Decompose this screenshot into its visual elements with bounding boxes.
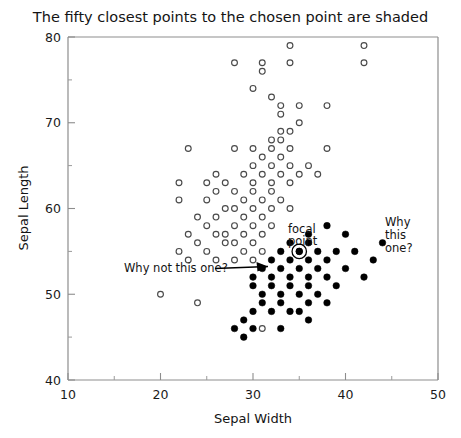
- data-point-unshaded: [250, 180, 256, 186]
- data-point-unshaded: [232, 206, 238, 212]
- data-point-unshaded: [232, 60, 238, 66]
- data-point-unshaded: [232, 223, 238, 229]
- data-point-shaded: [324, 257, 331, 264]
- data-point-unshaded: [259, 231, 265, 237]
- y-tick-label: 80: [45, 30, 61, 45]
- data-point-unshaded: [250, 146, 256, 152]
- data-point-unshaded: [241, 214, 247, 220]
- data-point-unshaded: [287, 128, 293, 134]
- data-point-unshaded: [250, 188, 256, 194]
- data-point-shaded: [277, 291, 284, 298]
- data-point-shaded: [351, 248, 358, 255]
- data-point-unshaded: [250, 206, 256, 212]
- y-tick-label: 40: [45, 373, 61, 388]
- data-point-unshaded: [278, 128, 284, 134]
- data-point-unshaded: [269, 223, 275, 229]
- scatter-plot-figure: The fifty closest points to the chosen p…: [0, 0, 461, 438]
- data-point-shaded: [370, 257, 377, 264]
- chart-title: The fifty closest points to the chosen p…: [32, 9, 428, 25]
- data-point-unshaded: [259, 248, 265, 254]
- data-point-shaded: [342, 265, 349, 272]
- data-point-shaded: [314, 291, 321, 298]
- data-point-shaded: [305, 300, 312, 307]
- data-point-shaded: [314, 248, 321, 255]
- why-not-this-one-label: Why not this one?: [124, 261, 228, 275]
- data-point-unshaded: [287, 146, 293, 152]
- data-point-unshaded: [269, 163, 275, 169]
- data-point-shaded: [305, 274, 312, 281]
- data-point-shaded: [240, 317, 247, 324]
- data-point-shaded: [305, 257, 312, 264]
- data-point-shaded: [314, 265, 321, 272]
- data-point-shaded: [240, 334, 247, 341]
- data-point-unshaded: [324, 103, 330, 109]
- data-point-unshaded: [213, 171, 219, 177]
- data-point-unshaded: [158, 291, 164, 297]
- data-point-unshaded: [241, 231, 247, 237]
- why-this-one-line3: one?: [385, 241, 413, 255]
- data-point-shaded: [250, 325, 257, 332]
- data-point-unshaded: [195, 240, 201, 246]
- data-point-unshaded: [241, 197, 247, 203]
- data-point-shaded: [250, 274, 257, 281]
- data-point-unshaded: [204, 248, 210, 254]
- data-point-shaded: [296, 308, 303, 315]
- data-point-shaded: [296, 291, 303, 298]
- data-point-unshaded: [241, 171, 247, 177]
- data-point-unshaded: [250, 240, 256, 246]
- data-point-shaded: [250, 308, 257, 315]
- data-point-unshaded: [259, 171, 265, 177]
- data-point-unshaded: [296, 120, 302, 126]
- data-point-unshaded: [213, 188, 219, 194]
- data-point-unshaded: [232, 240, 238, 246]
- data-point-unshaded: [250, 223, 256, 229]
- data-point-shaded: [268, 257, 275, 264]
- data-point-unshaded: [287, 163, 293, 169]
- data-point-shaded: [231, 325, 238, 332]
- data-point-unshaded: [204, 180, 210, 186]
- data-point-unshaded: [306, 163, 312, 169]
- data-point-shaded: [268, 274, 275, 281]
- x-tick-label: 40: [338, 387, 354, 402]
- data-point-unshaded: [232, 188, 238, 194]
- data-point-shaded: [333, 282, 340, 289]
- y-axis-label: Sepal Length: [16, 165, 31, 250]
- data-point-unshaded: [195, 214, 201, 220]
- data-point-unshaded: [278, 111, 284, 117]
- data-point-unshaded: [250, 163, 256, 169]
- plot-canvas: The fifty closest points to the chosen p…: [0, 0, 461, 438]
- data-point-shaded: [268, 282, 275, 289]
- data-point-unshaded: [296, 171, 302, 177]
- data-point-unshaded: [296, 103, 302, 109]
- focal-point-dot: [296, 248, 303, 255]
- data-point-unshaded: [213, 231, 219, 237]
- x-tick-label: 20: [153, 387, 169, 402]
- data-point-unshaded: [222, 180, 228, 186]
- data-point-unshaded: [269, 206, 275, 212]
- data-point-shaded: [277, 300, 284, 307]
- data-point-unshaded: [222, 206, 228, 212]
- data-point-unshaded: [324, 146, 330, 152]
- data-point-shaded: [287, 257, 294, 264]
- data-point-unshaded: [204, 197, 210, 203]
- data-point-unshaded: [278, 171, 284, 177]
- data-point-unshaded: [176, 180, 182, 186]
- data-point-unshaded: [232, 257, 238, 263]
- data-point-shaded: [342, 231, 349, 238]
- data-point-unshaded: [195, 300, 201, 306]
- x-tick-label: 50: [430, 387, 446, 402]
- data-point-shaded: [324, 274, 331, 281]
- data-point-unshaded: [278, 103, 284, 109]
- data-point-unshaded: [269, 180, 275, 186]
- data-point-unshaded: [278, 197, 284, 203]
- data-point-unshaded: [250, 86, 256, 92]
- data-point-unshaded: [204, 223, 210, 229]
- data-point-shaded: [259, 291, 266, 298]
- data-point-unshaded: [287, 180, 293, 186]
- data-point-shaded: [305, 317, 312, 324]
- why-this-one-line2: this: [385, 228, 406, 242]
- data-point-unshaded: [315, 171, 321, 177]
- data-point-shaded: [296, 265, 303, 272]
- data-point-unshaded: [278, 154, 284, 160]
- x-axis-label: Sepal Width: [214, 411, 292, 426]
